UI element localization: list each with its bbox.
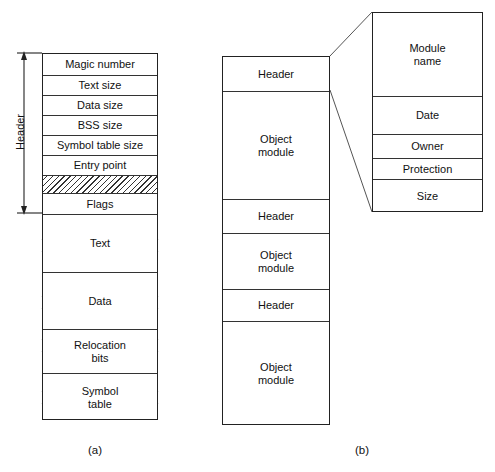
archive-row-object-module-2: Object module — [223, 233, 329, 289]
header-bracket-label: Header — [14, 102, 26, 162]
module-header-row-module-name: Module name — [373, 13, 482, 96]
module-header-row-protection: Protection — [373, 158, 482, 179]
object-file-row-entry-point: Entry point — [43, 155, 157, 175]
caption-b: (b) — [355, 444, 369, 456]
detail-connector-lines — [330, 12, 372, 212]
object-file-row-symbol-table: Symbol table — [43, 373, 157, 421]
object-file-row-symbol-table-size: Symbol table size — [43, 135, 157, 155]
caption-a: (a) — [88, 444, 102, 456]
object-file-row-text: Text — [43, 214, 157, 272]
module-header-row-size: Size — [373, 179, 482, 213]
object-file-row-text-size: Text size — [43, 75, 157, 95]
archive-row-header-3: Header — [223, 289, 329, 321]
object-file-row-data-size: Data size — [43, 95, 157, 115]
archive-row-object-module-1: Object module — [223, 91, 329, 199]
figure-canvas: Magic number Text size Data size BSS siz… — [0, 0, 495, 472]
object-file-row-reserved-hatched — [43, 175, 157, 194]
module-header-row-owner: Owner — [373, 134, 482, 158]
object-file-box: Magic number Text size Data size BSS siz… — [42, 53, 158, 420]
object-file-row-data: Data — [43, 272, 157, 329]
archive-row-header-1: Header — [223, 57, 329, 91]
archive-box: Header Object module Header Object modul… — [222, 56, 330, 425]
module-header-detail-box: Module name Date Owner Protection Size — [372, 12, 483, 212]
object-file-row-relocation-bits: Relocation bits — [43, 329, 157, 373]
object-file-row-bss-size: BSS size — [43, 115, 157, 135]
module-header-row-date: Date — [373, 96, 482, 134]
object-file-row-magic-number: Magic number — [43, 54, 157, 75]
archive-row-object-module-3: Object module — [223, 321, 329, 426]
object-file-row-flags: Flags — [43, 194, 157, 214]
archive-row-header-2: Header — [223, 199, 329, 233]
